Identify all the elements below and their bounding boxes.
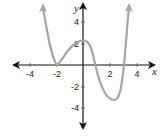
x-tick-label: 2 bbox=[107, 69, 112, 79]
chart-figure: -4 -2 2 4 4 2 -2 -4 x y bbox=[0, 0, 166, 136]
y-tick-label: -2 bbox=[71, 82, 79, 92]
x-tick-label: 4 bbox=[134, 69, 139, 79]
x-tick-label: -2 bbox=[53, 69, 61, 79]
x-axis-label: x bbox=[151, 65, 157, 77]
y-tick-label: 4 bbox=[74, 17, 79, 27]
y-tick-label: -4 bbox=[71, 103, 79, 113]
x-tick-label: -4 bbox=[26, 69, 34, 79]
y-axis-label: y bbox=[73, 2, 79, 14]
polynomial-curve bbox=[43, 8, 129, 100]
